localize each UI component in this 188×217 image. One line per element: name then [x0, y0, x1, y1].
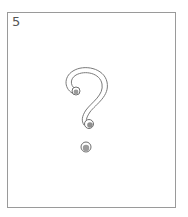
question-mark-icon	[0, 0, 188, 217]
